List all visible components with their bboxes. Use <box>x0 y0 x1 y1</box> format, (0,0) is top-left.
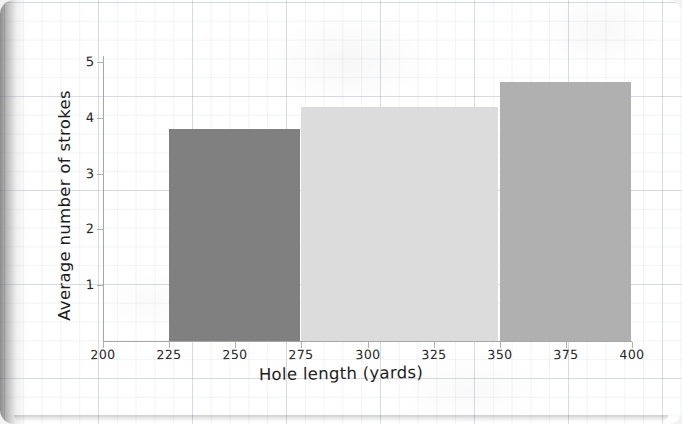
y-tick-label: 5 <box>70 54 95 70</box>
x-tick-label: 200 <box>90 347 115 363</box>
x-tick-label: 400 <box>619 347 644 363</box>
x-tick-label: 275 <box>289 347 314 363</box>
bar <box>301 107 498 341</box>
y-axis-line <box>103 56 104 342</box>
y-axis-title: Average number of strokes <box>55 76 74 336</box>
y-tick-mark <box>97 118 103 119</box>
x-tick-label: 325 <box>421 347 446 363</box>
y-tick-mark <box>97 229 103 230</box>
y-tick-mark <box>97 174 103 175</box>
y-tick-mark <box>97 62 103 63</box>
x-tick-label: 375 <box>553 347 578 363</box>
x-tick-label: 300 <box>355 347 380 363</box>
notebook-page: 20022525027530032535037540012345 Hole le… <box>0 0 682 424</box>
x-tick-label: 225 <box>156 347 181 363</box>
bar <box>169 129 300 341</box>
bar-chart: 20022525027530032535037540012345 Hole le… <box>0 0 682 424</box>
x-tick-label: 250 <box>223 347 248 363</box>
x-axis-title: Hole length (yards) <box>259 363 424 384</box>
bar <box>500 82 631 341</box>
y-tick-mark <box>97 285 103 286</box>
x-tick-label: 350 <box>487 347 512 363</box>
